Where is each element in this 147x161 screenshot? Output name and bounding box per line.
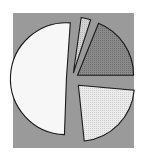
pie-chart-figure	[0, 0, 147, 161]
chart-plot-area	[0, 0, 147, 161]
pie-chart-svg	[0, 0, 147, 161]
